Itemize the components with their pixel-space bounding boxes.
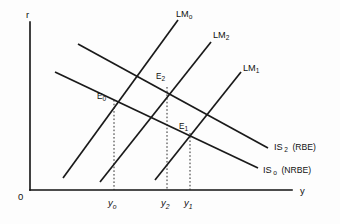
tick-label-y0: yo [107,197,117,210]
y-axis-label: r [26,9,29,20]
x-tick-labels: yo y2 y1 [107,197,193,210]
lm-curve-labels: LMo LM2 LM1 [176,9,260,74]
x-axis-label: y [300,185,305,196]
is2-curve-label: IS2(RBE) [274,142,316,153]
lm0-curve-label: LMo [176,9,193,20]
is0-curve-label: ISo(NRBE) [263,165,311,176]
tick-label-y2: y2 [160,197,170,210]
lm0-curve [63,20,178,178]
lm-curves [63,20,241,182]
is-lm-diagram: r y 0 yo y2 y1 LMo LM2 LM1 [0,0,340,224]
equilibrium-label-e2: E2 [156,72,165,82]
lm1-curve-label: LM1 [243,63,260,74]
tick-label-y1: y1 [183,197,193,210]
lm2-curve [100,42,211,182]
is-curves [55,44,268,168]
equilibrium-label-e0: E0 [97,92,106,102]
origin-label: 0 [18,191,23,202]
equilibrium-label-e1: E1 [179,122,188,132]
lm2-curve-label: LM2 [213,30,230,41]
equilibrium-labels: E0 E2 E1 [97,72,188,132]
equilibrium-drop-lines [114,87,190,190]
is-curve-labels: IS2(RBE) ISo(NRBE) [263,142,316,176]
